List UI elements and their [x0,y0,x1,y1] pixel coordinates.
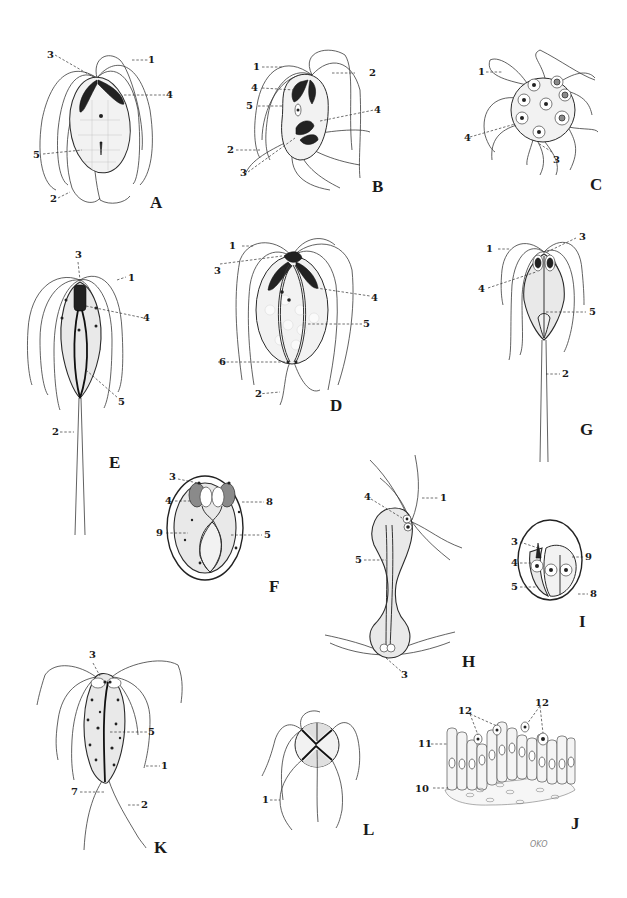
label-a-4: 4 [166,90,173,100]
label-j-10: 10 [415,784,429,794]
label-h-3: 3 [401,670,408,680]
figure-l [262,711,360,830]
figure-f [166,476,264,580]
label-g-3: 3 [579,232,586,242]
label-b-5: 5 [246,101,253,111]
label-a-1: 1 [148,55,155,65]
label-g-1: 1 [486,244,493,254]
label-h-4: 4 [364,492,371,502]
figure-h [325,455,462,672]
label-d-3: 3 [214,266,221,276]
figure-g [488,238,586,462]
label-b-4: 4 [251,83,258,93]
label-c-3: 3 [553,155,560,165]
label-f-8: 8 [266,497,273,507]
figure-j-tissue [431,706,575,805]
label-e-1: 1 [128,273,135,283]
label-f-3: 3 [169,472,176,482]
figure-k [37,661,182,850]
label-g-5: 5 [589,307,596,317]
label-d-6: 6 [219,357,226,367]
label-i-5: 5 [511,582,518,592]
label-e-4: 4 [143,313,150,323]
label-f-4: 4 [165,496,172,506]
label-b-2b: 2 [227,145,234,155]
label-j-12a: 12 [458,706,472,716]
label-j-12b: 12 [535,698,549,708]
label-k-7: 7 [71,787,78,797]
panel-letter-c: C [590,176,602,193]
label-e-2: 2 [52,427,59,437]
label-c-4: 4 [464,133,471,143]
label-h-5: 5 [355,555,362,565]
illustration-plate [0,0,627,898]
panel-letter-a: A [150,194,162,211]
panel-letter-k: K [154,839,167,856]
label-d-5: 5 [363,319,370,329]
label-j-11: 11 [418,739,432,749]
panel-letter-d: D [330,397,342,414]
figure-a [40,55,165,203]
label-d-1: 1 [229,241,236,251]
label-b-3: 3 [240,168,247,178]
label-b-1: 1 [253,62,260,72]
panel-letter-i: I [579,613,586,630]
label-i-4: 4 [511,558,518,568]
label-b-4b: 4 [374,105,381,115]
label-f-9: 9 [156,528,163,538]
panel-letter-f: F [269,578,279,595]
label-g-4: 4 [478,284,485,294]
figure-d [218,239,370,405]
panel-letter-b: B [372,178,383,195]
label-e-3: 3 [75,250,82,260]
label-k-1: 1 [161,761,168,771]
label-l-1: 1 [262,795,269,805]
label-d-4: 4 [371,293,378,303]
label-h-1: 1 [440,493,447,503]
label-e-5: 5 [118,397,125,407]
panel-letter-g: G [580,421,593,438]
label-a-3: 3 [47,50,54,60]
label-i-9: 9 [585,552,592,562]
label-i-3: 3 [511,537,518,547]
label-b-2: 2 [369,68,376,78]
panel-letter-j: J [571,815,580,832]
label-d-2: 2 [255,389,262,399]
label-k-3: 3 [89,650,96,660]
panel-letter-h: H [462,653,475,670]
label-k-2: 2 [141,800,148,810]
figure-e [27,262,144,535]
label-a-5: 5 [33,150,40,160]
label-g-2: 2 [562,369,569,379]
panel-letter-e: E [109,454,120,471]
label-f-5: 5 [264,530,271,540]
panel-letter-l: L [363,821,374,838]
label-a-2: 2 [50,194,57,204]
label-k-5: 5 [148,727,155,737]
label-c-1: 1 [478,67,485,77]
label-i-8: 8 [590,589,597,599]
figure-i [518,520,588,600]
artist-signature: OKO [530,840,548,849]
figure-c [470,50,598,175]
